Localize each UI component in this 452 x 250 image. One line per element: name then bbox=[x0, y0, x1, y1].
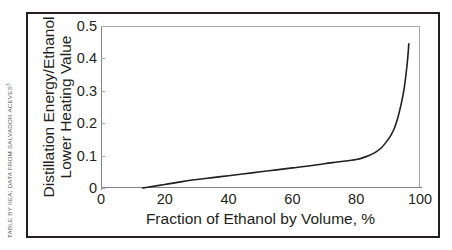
x-tick-label: 80 bbox=[326, 191, 386, 207]
y-tick-label: 0.4 bbox=[57, 50, 97, 66]
credit-text: TABLE BY IIEA; DATA FROM SALVADOR ACEVES bbox=[6, 86, 13, 238]
y-tick-label: 0.2 bbox=[57, 115, 97, 131]
data-curve bbox=[101, 26, 420, 188]
y-tick-label: 0.3 bbox=[57, 83, 97, 99]
y-tick-mark bbox=[101, 58, 105, 59]
y-tick-mark bbox=[101, 26, 105, 27]
y-tick-mark bbox=[101, 123, 105, 124]
x-tick-label: 0 bbox=[71, 191, 131, 207]
y-tick-mark bbox=[101, 91, 105, 92]
x-tick-label: 60 bbox=[262, 191, 322, 207]
series-line-distillation-energy bbox=[142, 44, 408, 188]
x-tick-label: 100 bbox=[390, 191, 450, 207]
y-tick-label: 0.5 bbox=[57, 18, 97, 34]
x-axis-title: Fraction of Ethanol by Volume, % bbox=[101, 210, 420, 228]
y-tick-mark bbox=[101, 156, 105, 157]
y-tick-label: 0.1 bbox=[57, 148, 97, 164]
x-tick-label: 40 bbox=[199, 191, 259, 207]
figure-container: TABLE BY IIEA; DATA FROM SALVADOR ACEVES… bbox=[0, 0, 452, 250]
x-tick-label: 20 bbox=[135, 191, 195, 207]
y-tick-mark bbox=[101, 188, 105, 189]
